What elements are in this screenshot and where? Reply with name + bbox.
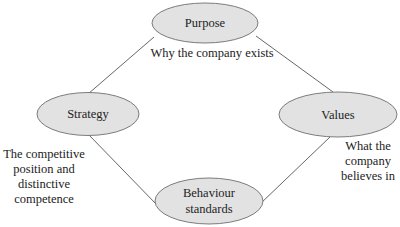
node-behaviour-standards: Behaviour standards	[155, 178, 263, 224]
node-purpose: Purpose	[152, 3, 258, 43]
node-strategy-label: Strategy	[67, 107, 109, 121]
caption-strategy-line-3: distinctive	[0, 177, 88, 192]
node-behaviour-shape	[155, 178, 263, 224]
node-values-label: Values	[321, 108, 354, 122]
caption-values-line-2: company	[336, 154, 400, 169]
caption-values-line-3: believes in	[336, 169, 400, 184]
node-values: Values	[279, 92, 397, 137]
caption-purpose-line: Why the company exists	[140, 46, 284, 61]
caption-strategy-line-1: The competitive	[0, 147, 88, 162]
caption-strategy-line-2: position and	[0, 162, 88, 177]
caption-values: What the company believes in	[336, 139, 400, 184]
caption-purpose: Why the company exists	[140, 46, 284, 61]
caption-strategy: The competitive position and distinctive…	[0, 147, 88, 207]
node-behaviour-label-line2: standards	[185, 202, 232, 216]
edge-values-behaviour	[260, 137, 330, 204]
node-behaviour-label-line1: Behaviour	[183, 186, 236, 200]
caption-strategy-line-4: competence	[0, 192, 88, 207]
node-purpose-label: Purpose	[185, 16, 226, 30]
edge-behaviour-strategy	[88, 134, 157, 205]
node-strategy: Strategy	[37, 93, 139, 136]
caption-values-line-1: What the	[336, 139, 400, 154]
edge-purpose-values	[256, 36, 333, 92]
